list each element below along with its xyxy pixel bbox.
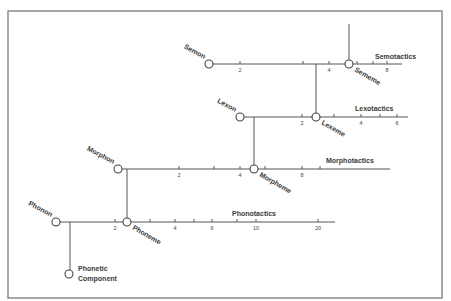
tick-label: 6 — [395, 120, 398, 126]
tick-label: 4 — [327, 67, 330, 73]
phonon-label: Phonon — [28, 199, 54, 217]
tick-label: 10 — [253, 225, 259, 231]
lexeme-label: Lexeme — [321, 119, 347, 138]
tick-label: 2 — [238, 67, 241, 73]
tick-label: 4 — [359, 120, 362, 126]
morpheme-node — [250, 165, 258, 173]
tick-label: 2 — [300, 120, 303, 126]
tick-label: 4 — [238, 172, 241, 178]
phoneme-label: Phoneme — [132, 224, 163, 246]
tick-label: 8 — [300, 172, 303, 178]
phonetic-component-label-2: Component — [78, 275, 118, 283]
tick-label: 6 — [210, 225, 213, 231]
tactics-lines: 248SemotacticsSemonSememe246LexotacticsL… — [28, 43, 417, 246]
tick-label: 2 — [177, 172, 180, 178]
stratificational-diagram: 248SemotacticsSemonSememe246LexotacticsL… — [0, 0, 451, 301]
tick-label: 4 — [173, 225, 176, 231]
phonetic-component-label-1: Phonetic — [78, 265, 108, 272]
morphotactics-label: Morphotactics — [326, 157, 374, 165]
semotactics-label: Semotactics — [375, 53, 416, 60]
tick-label: 20 — [315, 225, 321, 231]
morphon-node — [114, 165, 122, 173]
lexon-node — [236, 113, 244, 121]
tick-label: 8 — [385, 67, 388, 73]
sememe-label: Sememe — [354, 66, 383, 87]
tick-label: 2 — [113, 225, 116, 231]
sememe-node — [345, 60, 353, 68]
diagram-canvas: 248SemotacticsSemonSememe246LexotacticsL… — [0, 0, 451, 301]
phonon-node — [52, 218, 60, 226]
phonotactics-group: 2461020PhonotacticsPhononPhoneme — [28, 199, 335, 245]
morphon-label: Morphon — [86, 145, 116, 166]
phonetic-component-node — [65, 270, 73, 278]
semon-node — [205, 60, 213, 68]
lexeme-node — [312, 113, 320, 121]
semon-label: Semon — [183, 43, 207, 60]
lexon-label: Lexon — [216, 97, 237, 113]
lexotactics-group: 246LexotacticsLexonLexeme — [216, 97, 408, 138]
lexotactics-label: Lexotactics — [355, 105, 394, 112]
phonetic-component: Phonetic Component — [65, 265, 118, 283]
phonotactics-label: Phonotactics — [232, 210, 276, 217]
phoneme-node — [123, 218, 131, 226]
morpheme-label: Morpheme — [258, 171, 293, 196]
semotactics-group: 248SemotacticsSemonSememe — [183, 43, 416, 87]
morphotactics-group: 248MorphotacticsMorphonMorpheme — [86, 145, 390, 196]
